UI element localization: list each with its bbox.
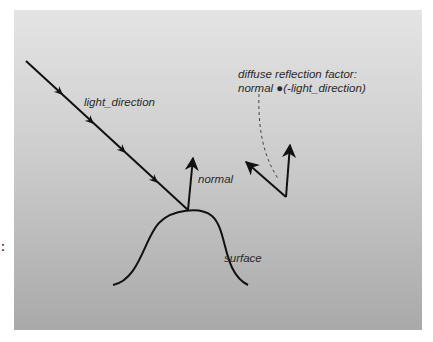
inset-negative-light-arrow	[246, 162, 286, 197]
diffuse-factor-title: diffuse reflection factor:	[238, 68, 357, 80]
surface-label: surface	[224, 252, 262, 264]
surface-curve	[113, 210, 248, 285]
diffuse-lighting-diagram: light_direction normal surface diffuse r…	[0, 0, 433, 342]
light-ray	[26, 61, 188, 210]
inset-normal-arrow	[286, 145, 290, 197]
light-direction-label: light_direction	[84, 96, 155, 108]
angle-pointer-dashed-curve	[259, 94, 279, 180]
normal-label: normal	[198, 173, 234, 185]
diffuse-factor-formula: normal ●(-light_direction)	[238, 82, 366, 94]
surface-normal-arrow	[188, 158, 193, 210]
